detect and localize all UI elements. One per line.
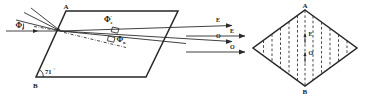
incoming-ray-e-arrowhead (239, 34, 246, 39)
vertex-label-a-right: A (303, 2, 308, 10)
vertex-label-b-right: B (303, 88, 308, 96)
exit-ray-e (61, 26, 233, 32)
reference-axis-arrowhead (33, 29, 38, 33)
vertex-label-a-left: A (64, 3, 69, 11)
incoming-label-o: O (230, 44, 235, 50)
figure-root: A B 71 ° Φ i (0, 0, 370, 96)
incoming-ray-o-arrowhead (239, 50, 246, 55)
left-prism-group: A B 71 ° Φ i (6, 3, 233, 91)
vertex-label-b-left: B (33, 82, 38, 90)
optical-diagram-svg: A B 71 ° Φ i (0, 0, 370, 96)
angle-marker-box-o (107, 36, 115, 42)
internal-angle-e-subscript: e (111, 20, 114, 25)
angle-arc-71 (40, 70, 43, 77)
incoming-label-e: E (230, 28, 234, 34)
vector-label-o: O (309, 50, 314, 56)
right-prism-group: A B E O E (186, 2, 357, 97)
angle-marker-box-e (111, 27, 119, 33)
vector-label-e: E (309, 31, 313, 37)
degree-symbol-71: ° (54, 67, 56, 72)
exit-label-e: E (216, 17, 220, 23)
internal-angle-o-subscript: o (123, 40, 126, 45)
angle-label-71: 71 (45, 68, 52, 75)
